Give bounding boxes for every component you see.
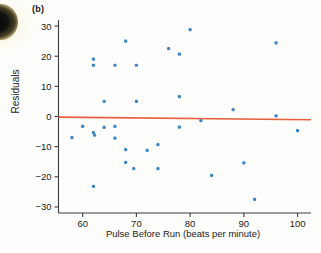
data-point — [210, 174, 213, 177]
x-tick-label: 100 — [290, 218, 306, 229]
y-tick-label: 0 — [46, 111, 51, 122]
data-point — [124, 161, 127, 164]
residual-plot-figure: (b) Residuals Pulse Before Run (beats pe… — [0, 0, 321, 253]
x-tick-label: 90 — [239, 218, 250, 229]
data-point — [178, 125, 181, 128]
data-point — [113, 137, 116, 140]
y-tick-label: −10 — [35, 141, 51, 152]
data-point — [113, 125, 116, 128]
data-point — [178, 95, 181, 98]
data-point — [103, 100, 106, 103]
data-point — [156, 167, 159, 170]
y-tick-label: 30 — [41, 21, 52, 32]
data-point — [199, 119, 202, 122]
scatter-plot-canvas: 3020100−10−20−30 60708090100 — [0, 0, 321, 253]
data-point — [124, 148, 127, 151]
data-point — [103, 126, 106, 129]
y-tick-label: 20 — [41, 51, 52, 62]
y-tick-label: −30 — [35, 201, 51, 212]
data-point — [296, 129, 299, 132]
data-point — [274, 41, 277, 44]
data-point — [156, 143, 159, 146]
data-point — [92, 64, 95, 67]
data-point — [232, 108, 235, 111]
zero-reference-line — [59, 117, 312, 120]
data-point — [132, 167, 135, 170]
data-point — [124, 40, 127, 43]
data-point — [135, 64, 138, 67]
data-point — [135, 100, 138, 103]
x-tick-label: 80 — [185, 218, 196, 229]
data-point — [253, 198, 256, 201]
x-axis-ticks: 60708090100 — [77, 213, 305, 229]
data-point — [167, 47, 170, 50]
data-point — [242, 161, 245, 164]
data-point — [146, 149, 149, 152]
data-point — [274, 114, 277, 117]
y-tick-label: 10 — [41, 81, 52, 92]
data-point — [81, 125, 84, 128]
x-tick-label: 70 — [131, 218, 142, 229]
data-point — [92, 58, 95, 61]
data-points — [70, 28, 299, 201]
y-axis-ticks: 3020100−10−20−30 — [35, 21, 58, 213]
data-point — [178, 52, 181, 55]
data-point — [113, 64, 116, 67]
data-point — [70, 136, 73, 139]
data-point — [92, 185, 95, 188]
x-tick-label: 60 — [77, 218, 88, 229]
data-point — [93, 134, 96, 137]
data-point — [189, 28, 192, 31]
y-tick-label: −20 — [35, 171, 51, 182]
